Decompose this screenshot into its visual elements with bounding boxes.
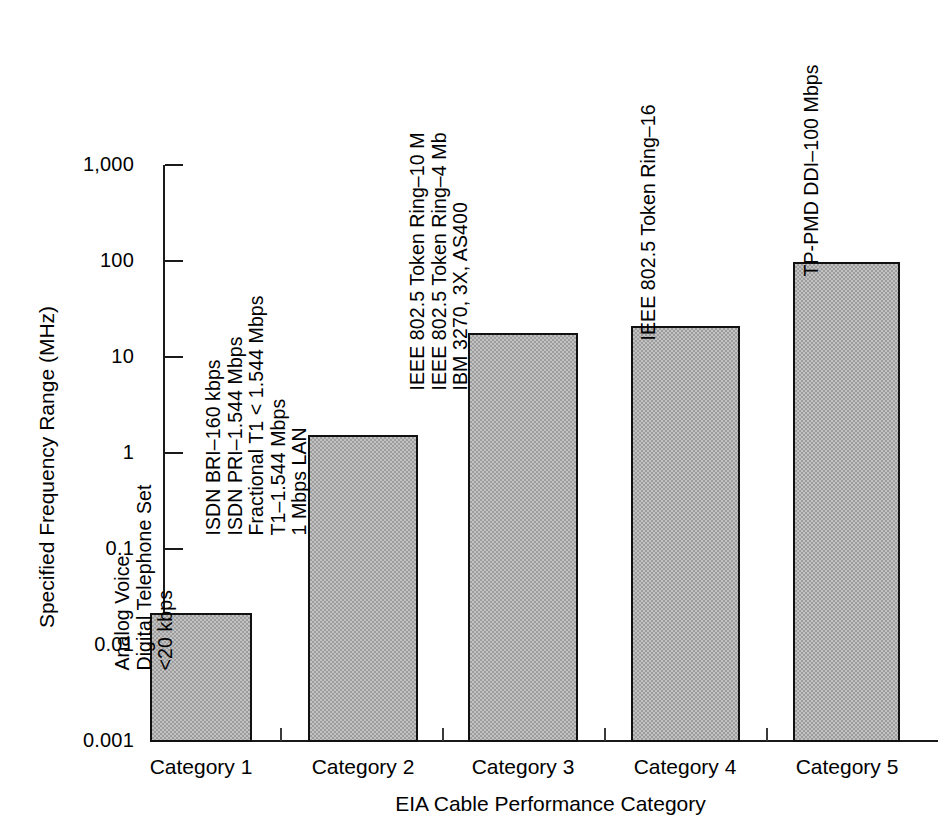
y-tick-label-0.001: 0.001 xyxy=(83,730,134,750)
y-tick-label-10: 10 xyxy=(111,346,134,366)
annotation-line: ISDN BRI–160 kbps xyxy=(203,295,225,535)
y-tick-label-100: 100 xyxy=(100,250,134,270)
frequency-range-bar-chart: 1,000 100 10 1 0.1 0.01 0.001 Specified … xyxy=(0,0,951,834)
x-tick-label-category-5: Category 5 xyxy=(782,755,912,779)
annotation-line: Fractional T1 < 1.544 Mbps xyxy=(246,295,268,535)
bar-category-4 xyxy=(631,326,740,742)
y-tick-label-1: 1 xyxy=(123,442,134,462)
y-tick-mark-100 xyxy=(165,260,183,262)
x-tick-label-category-3: Category 3 xyxy=(458,755,588,779)
x-tick-mark-2 xyxy=(442,728,444,741)
bar-category-3 xyxy=(468,333,578,742)
annotation-line: TP-PMD DDI–100 Mbps xyxy=(801,64,823,276)
annotation-line: <20 kbps xyxy=(155,484,177,670)
bar-category-5 xyxy=(793,262,900,742)
y-tick-mark-10 xyxy=(165,356,183,358)
bar-annotation-category-1: Analog Voice Digital Telephone Set <20 k… xyxy=(112,484,177,670)
bar-annotation-category-2: ISDN BRI–160 kbps ISDN PRI–1.544 Mbps Fr… xyxy=(203,295,311,535)
y-tick-mark-1000 xyxy=(165,164,183,166)
annotation-line: IEEE 802.5 Token Ring–10 M xyxy=(407,132,429,390)
annotation-line: IBM 3270, 3X, AS400 xyxy=(450,132,472,390)
annotation-line: T1–1.544 Mbps xyxy=(267,295,289,535)
annotation-line: Digital Telephone Set xyxy=(133,484,155,670)
x-tick-mark-1 xyxy=(280,728,282,741)
annotation-line: IEEE 802.5 Token Ring–16 xyxy=(638,104,660,340)
annotation-line: IEEE 802.5 Token Ring–4 Mb xyxy=(428,132,450,390)
x-tick-mark-4 xyxy=(766,728,768,741)
annotation-line: 1 Mbps LAN xyxy=(289,295,311,535)
bar-annotation-category-4: IEEE 802.5 Token Ring–16 xyxy=(638,104,660,340)
y-tick-mark-1 xyxy=(165,452,183,454)
bar-annotation-category-5: TP-PMD DDI–100 Mbps xyxy=(801,64,823,276)
x-tick-label-category-2: Category 2 xyxy=(298,755,428,779)
annotation-line: Analog Voice xyxy=(112,484,134,670)
x-tick-label-category-1: Category 1 xyxy=(136,755,266,779)
y-axis-title: Specified Frequency Range (MHz) xyxy=(35,272,59,662)
bar-category-2 xyxy=(308,435,418,742)
bar-annotation-category-3: IEEE 802.5 Token Ring–10 M IEEE 802.5 To… xyxy=(407,132,472,390)
x-axis-title: EIA Cable Performance Category xyxy=(163,792,938,816)
y-tick-label-1000: 1,000 xyxy=(83,154,134,174)
annotation-line: ISDN PRI–1.544 Mbps xyxy=(224,295,246,535)
x-tick-mark-3 xyxy=(604,728,606,741)
x-tick-label-category-4: Category 4 xyxy=(620,755,750,779)
